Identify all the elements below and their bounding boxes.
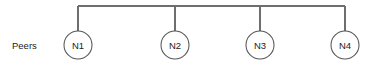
topology-canvas: N1 N2 N3 N4 Peers (0, 0, 365, 72)
node-label-n1: N1 (72, 40, 84, 51)
node-label-n3: N3 (254, 40, 266, 51)
node-label-n4: N4 (339, 40, 351, 51)
peers-topology-diagram: N1 N2 N3 N4 Peers (0, 0, 365, 72)
peers-row-label: Peers (12, 40, 37, 51)
node-label-n2: N2 (169, 40, 181, 51)
